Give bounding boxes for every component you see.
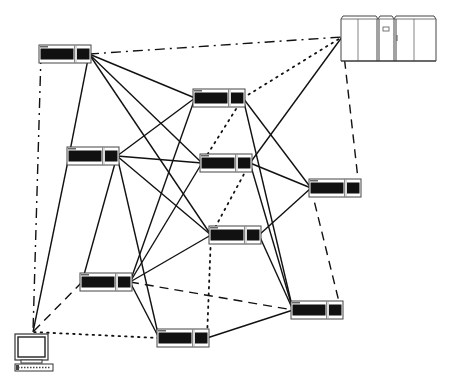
network-device-n4 xyxy=(200,154,252,172)
network-device-n2 xyxy=(193,89,245,107)
edge-n1-terminal-dash-dot xyxy=(33,54,41,332)
edge-n7-n8-solid xyxy=(130,282,159,338)
edge-n6-n9-solid xyxy=(259,235,293,310)
edge-n7-n9-dashed xyxy=(130,282,293,310)
edge-n5-n6-solid xyxy=(259,188,311,235)
edge-n6-n8-dotted xyxy=(207,235,211,338)
edge-n1-mainframe-dash-dot xyxy=(89,37,342,54)
edge-n8-n9-solid xyxy=(207,310,293,338)
edge-n4-mainframe-solid xyxy=(250,37,342,163)
edge-n3-terminal-solid xyxy=(33,156,69,332)
edge-n3-n8-solid xyxy=(117,156,159,338)
edge-n1-n2-solid xyxy=(89,54,195,98)
edge-n3-n6-solid xyxy=(117,156,211,235)
network-diagram xyxy=(0,0,457,391)
computer-terminal-icon xyxy=(15,334,53,371)
edge-n5-n9-dashed xyxy=(311,188,341,310)
network-device-n1 xyxy=(39,45,91,63)
edge-n3-n7-solid xyxy=(82,156,117,282)
devices xyxy=(15,16,436,371)
edge-n2-n3-solid xyxy=(117,98,195,156)
edge-n7-terminal-dashed xyxy=(33,282,82,332)
edge-n6-n7-solid xyxy=(130,235,211,282)
edge-n2-n9-solid xyxy=(243,98,293,310)
network-device-n6 xyxy=(209,226,261,244)
edge-n1-n3-solid xyxy=(69,54,89,156)
network-device-n9 xyxy=(291,301,343,319)
edge-n4-n6-dotted xyxy=(211,163,250,235)
network-device-n5 xyxy=(309,179,361,197)
edge-n3-n4-solid xyxy=(117,156,202,163)
network-device-n8 xyxy=(157,329,209,347)
edge-n2-n4-dotted xyxy=(202,98,243,163)
mainframe-server-icon xyxy=(341,16,436,61)
network-device-n7 xyxy=(80,273,132,291)
edge-n2-mainframe-dotted xyxy=(243,37,342,98)
edge-n8-terminal-dotted xyxy=(33,332,159,338)
network-device-n3 xyxy=(67,147,119,165)
edge-n1-n6-solid xyxy=(89,54,211,235)
